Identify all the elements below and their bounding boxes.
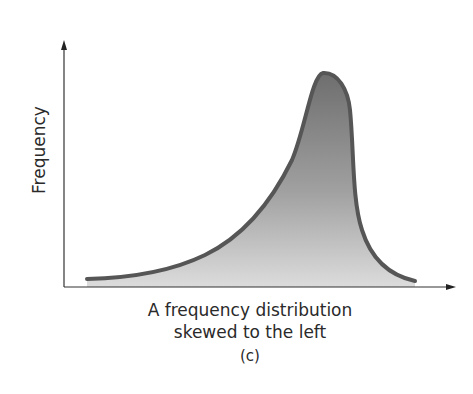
x-axis-caption-line2: skewed to the left (100, 321, 400, 343)
y-axis-arrow-icon (61, 40, 67, 50)
y-axis-label: Frequency (27, 100, 51, 200)
x-axis-caption-line1: A frequency distribution (100, 299, 400, 321)
x-axis-arrow-icon (446, 284, 456, 290)
panel-label: (c) (100, 345, 400, 367)
distribution-area (87, 73, 415, 287)
